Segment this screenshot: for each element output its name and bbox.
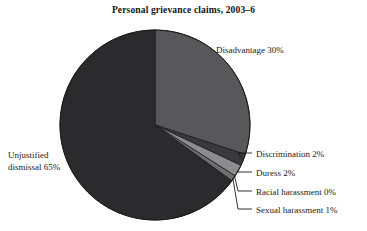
pie-label-sexual-harassment: Sexual harassment 1% [256, 205, 337, 217]
pie-label-discrimination: Discrimination 2% [256, 149, 324, 161]
pie-label-racial-harassment: Racial harassment 0% [256, 187, 336, 199]
pie-chart-figure: Personal grievance claims, 2003–6 Disadv… [0, 0, 367, 231]
leader-line [234, 175, 252, 191]
pie-label-unjustified-dismissal-line1: Unjustified [8, 150, 60, 162]
pie-label-unjustified-dismissal-line2: dismissal 65% [8, 162, 60, 174]
pie-label-unjustified-dismissal: Unjustified dismissal 65% [8, 150, 60, 173]
pie-slice-group [60, 30, 250, 220]
leader-line [237, 170, 252, 172]
pie-label-disadvantage: Disadvantage 30% [216, 45, 284, 57]
pie-label-duress: Duress 2% [256, 168, 295, 180]
